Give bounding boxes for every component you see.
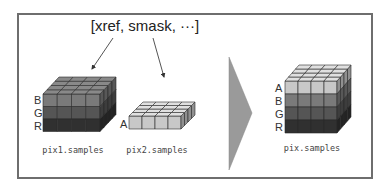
pix1-layer-label-r: R xyxy=(34,120,42,132)
arrow-down-right-icon xyxy=(153,38,164,77)
pix-layer-label-a: A xyxy=(275,82,283,94)
pix1-cube xyxy=(43,77,116,132)
arrow-down-left-icon xyxy=(92,38,113,69)
pix2-layer-label-a: A xyxy=(120,118,128,130)
pix2-caption: pix2.samples xyxy=(126,145,187,155)
pix-caption: pix.samples xyxy=(284,143,340,153)
diagram-canvas: [xref, smask, ···] B G R pix1.samples A … xyxy=(0,0,392,193)
title-text: [xref, smask, ···] xyxy=(91,17,199,34)
pix1-layer-label-g: G xyxy=(34,107,43,119)
pix2-slab xyxy=(129,102,195,129)
pix-cube xyxy=(285,65,351,133)
chevron-right-icon xyxy=(229,57,252,170)
pix-layer-label-b: B xyxy=(275,95,282,107)
pix-layer-label-g: G xyxy=(275,108,284,120)
pix1-layer-label-b: B xyxy=(34,94,41,106)
pix-layer-label-r: R xyxy=(275,121,283,133)
diagram: [xref, smask, ···] B G R pix1.samples A … xyxy=(0,0,392,193)
pix1-caption: pix1.samples xyxy=(42,145,103,155)
